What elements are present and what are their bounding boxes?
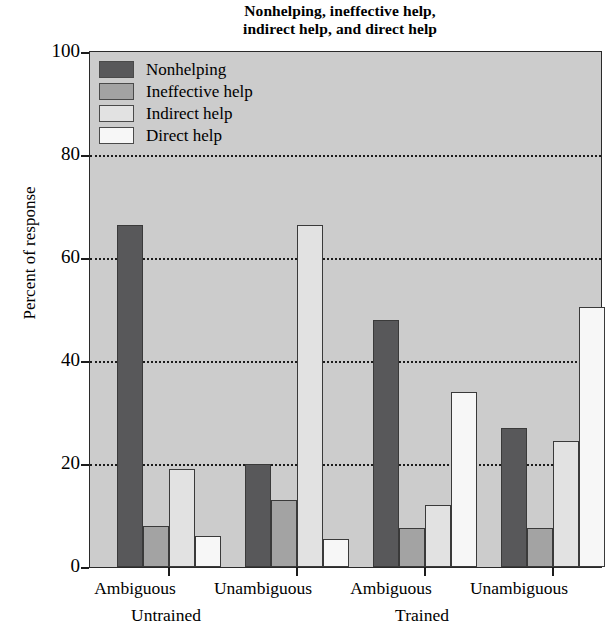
gridline-40 [90,361,601,363]
chart-title: Nonhelping, ineffective help, indirect h… [160,2,520,38]
y-tick-60 [81,258,89,260]
plot-area: Nonhelping Ineffective help Indirect hel… [89,51,602,568]
x-tick-3 [424,567,426,576]
bar [271,500,297,567]
bar [527,528,553,567]
y-tick-0 [81,567,89,569]
y-tick-40 [81,361,89,363]
y-tick-20 [81,464,89,466]
legend-item-ineffective-help: Ineffective help [99,80,309,102]
x-label-trained-unambiguous: Unambiguous [434,578,604,598]
bar [501,428,527,567]
x-tick-2 [296,567,298,576]
x-tick-1 [168,567,170,576]
y-tick-100 [81,52,89,54]
gridline-80 [90,155,601,157]
y-tick-label-100: 100 [34,41,80,60]
bar [425,505,451,567]
chart-title-line-2: indirect help, and direct help [160,20,520,38]
legend-item-indirect-help: Indirect help [99,102,309,124]
legend-swatch-direct-help [99,127,134,144]
legend-swatch-nonhelping [99,61,134,78]
x-tick-4 [552,567,554,576]
y-axis-title: Percent of response [20,153,40,353]
y-tick-label-60: 60 [34,247,80,266]
x-group-label-trained: Trained [322,605,522,625]
bar [323,539,349,567]
y-tick-80 [81,155,89,157]
bar [399,528,425,567]
legend-swatch-ineffective-help [99,83,134,100]
legend-label-indirect-help: Indirect help [146,104,232,123]
bar [579,307,605,567]
legend-swatch-indirect-help [99,105,134,122]
bar [451,392,477,567]
legend-item-direct-help: Direct help [99,124,309,146]
y-tick-label-80: 80 [34,144,80,163]
bar [373,320,399,567]
bar [143,526,169,567]
y-tick-label-20: 20 [34,453,80,472]
chart-title-line-1: Nonhelping, ineffective help, [160,2,520,20]
bar-chart-figure: Nonhelping, ineffective help, indirect h… [0,0,614,639]
gridline-60 [90,258,601,260]
bar [297,225,323,567]
bar [553,441,579,567]
bar [117,225,143,567]
legend-label-ineffective-help: Ineffective help [146,82,253,101]
legend-label-direct-help: Direct help [146,126,222,145]
bar [245,464,271,567]
legend-item-nonhelping: Nonhelping [99,58,309,80]
x-group-label-untrained: Untrained [66,605,266,625]
y-tick-label-40: 40 [34,350,80,369]
legend-label-nonhelping: Nonhelping [146,60,226,79]
legend: Nonhelping Ineffective help Indirect hel… [99,58,309,146]
bar [169,469,195,567]
bar [195,536,221,567]
y-tick-label-0: 0 [34,556,80,575]
